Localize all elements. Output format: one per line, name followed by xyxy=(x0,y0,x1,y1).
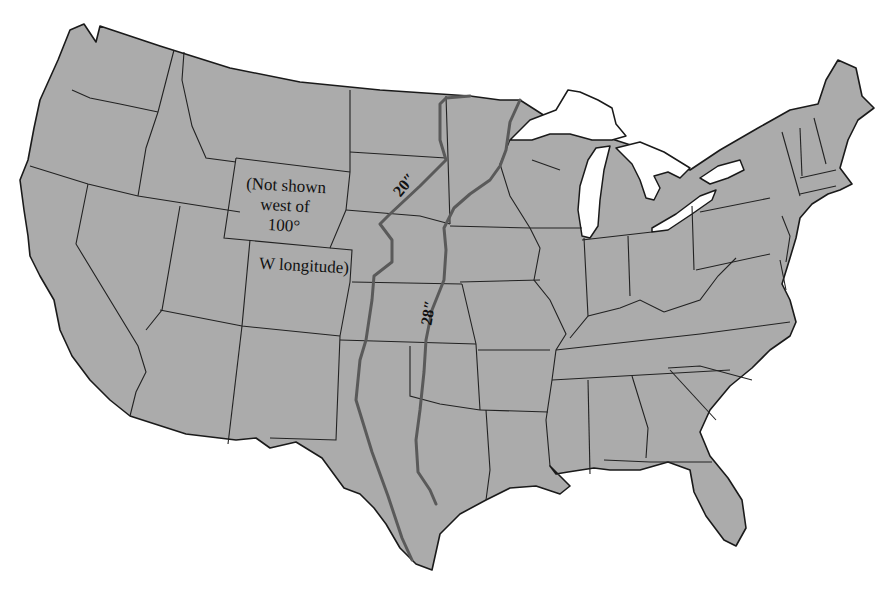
us-landmass xyxy=(20,24,874,570)
us-map: (Not shown west of 100° W longitude) 20″… xyxy=(0,0,894,592)
note-text: (Not shown west of 100° xyxy=(231,173,340,238)
us-outline-map xyxy=(0,0,894,592)
